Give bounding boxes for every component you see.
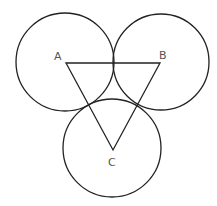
three-circles-triangle-diagram: A B C xyxy=(0,0,217,206)
label-c: C xyxy=(108,156,116,169)
circle-a xyxy=(16,13,114,111)
label-a: A xyxy=(54,50,62,63)
label-b: B xyxy=(159,49,167,62)
triangle-abc xyxy=(66,63,160,150)
circle-b xyxy=(113,14,209,110)
